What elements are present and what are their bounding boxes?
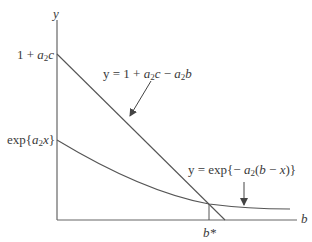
- curve-equation-label: y = exp{− a2(b − x)}: [188, 163, 296, 176]
- line-annotation-arrow: [130, 81, 151, 116]
- b-star-label: b*: [203, 226, 216, 239]
- y-tick-lower: exp{a2x}: [7, 133, 55, 146]
- diagram-canvas: [0, 0, 312, 242]
- y-tick-upper: 1 + a2c: [17, 48, 54, 61]
- line-equation-label: y = 1 + a2c − a2b: [103, 67, 192, 80]
- y-axis-label: y: [53, 7, 59, 20]
- x-axis-label: b: [301, 212, 308, 225]
